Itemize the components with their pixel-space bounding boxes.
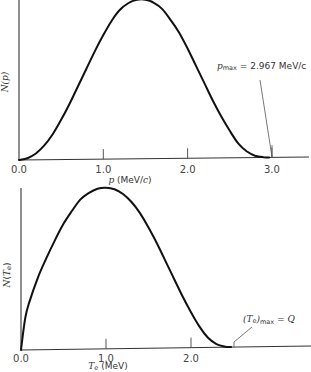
y-axis-label: N(Te) [2, 263, 13, 289]
x-tick-label: 1.0 [95, 164, 111, 175]
momentum-spectrum-plot: 0.01.02.03.0 pmax = 2.967 MeV/c N(p) p (… [0, 0, 309, 185]
x-ticks [106, 338, 191, 349]
x-tick-label: 2.0 [183, 353, 199, 364]
x-axis-label: p (MeV/c) [108, 175, 151, 185]
x-tick-label: 3.0 [264, 164, 280, 175]
beta-spectrum-figure: 0.01.02.03.0 pmax = 2.967 MeV/c N(p) p (… [0, 0, 311, 372]
x-axis-label: Te (MeV) [88, 361, 127, 372]
x-tick-label: 0.0 [13, 353, 29, 364]
pmax-annotation: pmax = 2.967 MeV/c [217, 61, 306, 72]
x-tick-labels: 0.01.02.03.0 [11, 164, 280, 175]
x-axis [21, 346, 311, 350]
energy-distribution-curve [21, 188, 231, 350]
x-tick-label: 0.0 [11, 164, 27, 175]
pmax-leader-line [260, 80, 272, 157]
energy-spectrum-plot: 0.01.02.0 (Te)max = Q N(Te) Te (MeV) [2, 188, 311, 372]
momentum-distribution-curve [19, 0, 269, 160]
q-leader-line [234, 327, 252, 342]
x-tick-label: 2.0 [180, 164, 196, 175]
y-axis-label: N(p) [0, 71, 10, 93]
q-annotation: (Te)max = Q [243, 314, 295, 326]
